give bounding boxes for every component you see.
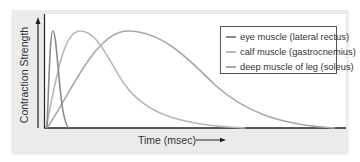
y-axis-label: Contraction Strength	[18, 27, 30, 123]
y-axis-arrowhead-icon	[36, 17, 41, 24]
legend-swatch-icon	[226, 36, 236, 38]
legend-swatch-icon	[226, 66, 236, 68]
legend-label: calf muscle (gastrocnemius)	[240, 47, 356, 57]
x-axis-arrowhead-icon	[220, 138, 226, 142]
legend-label: eye muscle (lateral rectus)	[240, 32, 349, 42]
legend-swatch-icon	[226, 51, 236, 53]
legend-item-gastrocnemius: calf muscle (gastrocnemius)	[226, 44, 336, 59]
x-axis-label: Time (msec)	[138, 134, 196, 146]
legend: eye muscle (lateral rectus) calf muscle …	[220, 26, 337, 74]
legend-item-lateral-rectus: eye muscle (lateral rectus)	[226, 29, 336, 44]
legend-label: deep muscle of leg (soleus)	[240, 62, 354, 72]
legend-item-soleus: deep muscle of leg (soleus)	[226, 59, 336, 74]
